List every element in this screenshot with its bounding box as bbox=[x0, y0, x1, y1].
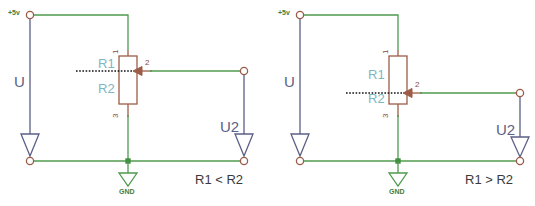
pot-pin3-label-right: 3 bbox=[381, 113, 390, 118]
gnd-triangle-left bbox=[119, 173, 137, 186]
supply-label-left: +5v bbox=[8, 9, 20, 16]
terminal-bottom-right-left bbox=[240, 157, 247, 164]
gnd-label-left: GND bbox=[119, 188, 135, 195]
r1-label-right: R1 bbox=[368, 67, 385, 82]
comparison-label-left: R1 < R2 bbox=[195, 172, 243, 187]
terminal-bottom-left-left bbox=[26, 157, 33, 164]
u-arrow-head-left bbox=[21, 134, 39, 156]
terminal-supply-left bbox=[26, 11, 33, 18]
terminal-supply-right bbox=[296, 11, 303, 18]
u2-arrow-head-left bbox=[235, 134, 253, 156]
pot-pin1-label-right: 1 bbox=[381, 49, 390, 54]
u-label-right: U bbox=[284, 73, 295, 90]
u-label-left: U bbox=[14, 73, 25, 90]
circuit-diagram: +5v U 1 3 2 R1 R2 bbox=[0, 0, 535, 206]
pot-pin1-label-left: 1 bbox=[111, 49, 120, 54]
gnd-triangle-right bbox=[389, 173, 407, 186]
comparison-label-right: R1 > R2 bbox=[465, 172, 513, 187]
pot-pin2-label-left: 2 bbox=[145, 58, 150, 67]
r2-label-left: R2 bbox=[98, 81, 115, 96]
pot-pin3-label-left: 3 bbox=[111, 113, 120, 118]
pot-pin2-label-right: 2 bbox=[415, 80, 420, 89]
u2-arrow-head-right bbox=[511, 137, 529, 157]
r1-label-left: R1 bbox=[98, 56, 115, 71]
wire-supply-rail-right bbox=[304, 15, 398, 50]
terminal-bottom-right-right bbox=[516, 157, 523, 164]
potentiometer-body-right bbox=[389, 56, 407, 104]
wire-supply-rail-left bbox=[34, 15, 128, 50]
schematic-canvas: +5v U 1 3 2 R1 R2 bbox=[0, 0, 535, 206]
circuit-left: +5v U 1 3 2 R1 R2 bbox=[8, 9, 253, 195]
circuit-right: +5v U 1 3 2 R1 R2 bbox=[278, 9, 529, 195]
u2-label-left: U2 bbox=[220, 118, 239, 135]
terminal-output-right bbox=[516, 89, 523, 96]
terminal-output-left bbox=[240, 67, 247, 74]
u2-label-right: U2 bbox=[496, 121, 515, 138]
supply-label-right: +5v bbox=[278, 9, 290, 16]
u-arrow-head-right bbox=[291, 134, 309, 156]
terminal-bottom-left-right bbox=[296, 157, 303, 164]
potentiometer-body-left bbox=[119, 56, 137, 104]
gnd-label-right: GND bbox=[389, 188, 405, 195]
